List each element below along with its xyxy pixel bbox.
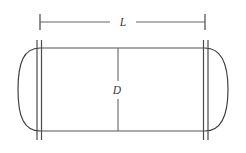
left-flange-group [37,40,42,140]
diameter-dimension-label: D [112,84,122,96]
length-dimension-group: L [40,14,205,30]
diameter-dimension-group: D [112,48,122,131]
right-flange-group [204,40,209,140]
length-dimension-label: L [119,16,126,28]
vessel-diagram-canvas: L D [0,0,246,153]
vessel-diagram-svg: L D [0,0,246,153]
